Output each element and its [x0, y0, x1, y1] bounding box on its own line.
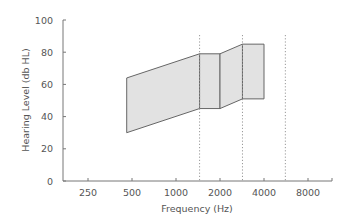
audiogram-chart: 020406080100 2505001000200040008000 Freq… — [0, 0, 350, 223]
x-axis-label: Frequency (Hz) — [161, 203, 233, 214]
y-tick-label: 20 — [41, 143, 53, 154]
region-3 — [220, 44, 242, 108]
region-4 — [242, 44, 264, 99]
region-1 — [127, 54, 200, 133]
x-tick-label: 8000 — [296, 187, 320, 198]
x-tick-label: 1000 — [164, 187, 188, 198]
shaded-regions — [127, 44, 264, 133]
y-tick-label: 80 — [41, 47, 53, 58]
y-tick-label: 100 — [35, 15, 53, 26]
y-ticks: 020406080100 — [35, 15, 66, 187]
x-tick-label: 250 — [79, 187, 97, 198]
x-tick-label: 500 — [123, 187, 141, 198]
region-2 — [200, 54, 220, 109]
x-tick-label: 4000 — [252, 187, 276, 198]
y-axis-label: Hearing Level (db HL) — [20, 48, 31, 151]
x-tick-label: 2000 — [208, 187, 232, 198]
y-tick-label: 60 — [41, 79, 53, 90]
y-tick-label: 0 — [47, 176, 53, 187]
y-tick-label: 40 — [41, 111, 53, 122]
